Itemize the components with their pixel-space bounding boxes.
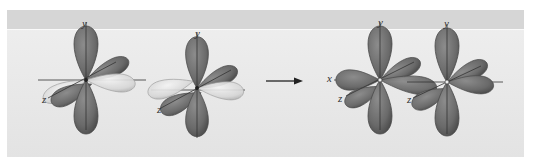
orbital-3-z-label: z bbox=[337, 92, 343, 104]
nucleus bbox=[195, 86, 199, 90]
nucleus bbox=[84, 78, 88, 82]
nucleus bbox=[378, 78, 382, 82]
orbital-3-y-label: y bbox=[377, 16, 383, 28]
orbital-4-y-label: y bbox=[443, 17, 449, 29]
orbital-1-y-label: y bbox=[81, 17, 87, 29]
orbital-overlap-figure: y z y z bbox=[0, 0, 534, 161]
orbital-2-z-label: z bbox=[156, 103, 162, 115]
nucleus bbox=[445, 80, 449, 84]
orbital-1-z-label: z bbox=[41, 93, 47, 105]
orbital-2-y-label: y bbox=[194, 27, 200, 39]
orbital-3-x-label: x bbox=[326, 72, 332, 84]
orbital-4-z-label: z bbox=[406, 93, 412, 105]
